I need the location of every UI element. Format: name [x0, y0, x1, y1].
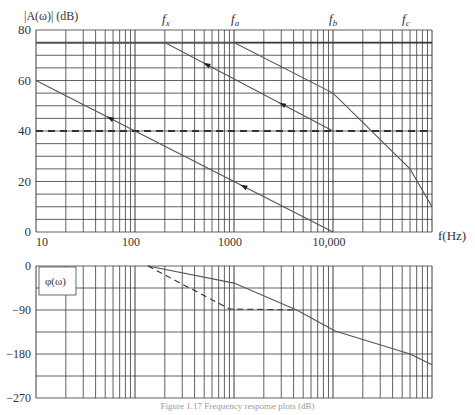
magnitude-axis-label: |A(ω)| (dB) [24, 9, 78, 23]
corner-label-fa: fa [231, 11, 240, 28]
frequency-axis-label: f(Hz) [438, 228, 466, 243]
frequency-tick-label: 100 [122, 235, 140, 249]
frequency-tick-label: 10 [36, 235, 48, 249]
phase-tick-label: −180 [6, 347, 31, 361]
phase-curves [148, 266, 432, 365]
corner-label-fc: fc [402, 11, 410, 28]
figure-caption: Figure 1.17 Frequency response plots (dB… [0, 401, 475, 411]
magnitude-tick-label: 60 [18, 73, 31, 88]
axis-tick-labels: 02040608010100100010,0000−90−180−270 [6, 22, 345, 405]
bode-plot: 02040608010100100010,0000−90−180−270 |A(… [0, 0, 475, 415]
phase-tick-label: 0 [25, 259, 31, 273]
frequency-tick-label: 1000 [218, 235, 242, 249]
phase-legend-label: φ(ω) [45, 275, 66, 288]
magnitude-tick-label: 20 [18, 174, 31, 189]
phase-grid [36, 266, 432, 398]
magnitude-tick-label: 40 [18, 123, 31, 138]
phase-tick-label: −90 [12, 303, 31, 317]
curve-compensated-gain-f-x- [36, 43, 333, 131]
corner-label-fb: fb [329, 11, 338, 28]
magnitude-tick-label: 80 [18, 22, 31, 37]
direction-arrow-icon [240, 185, 248, 190]
corner-label-fx: fx [162, 11, 170, 28]
curve-phase-uncompensated- [148, 266, 432, 365]
magnitude-tick-label: 0 [25, 224, 32, 239]
frequency-tick-label: 10,000 [313, 235, 346, 249]
